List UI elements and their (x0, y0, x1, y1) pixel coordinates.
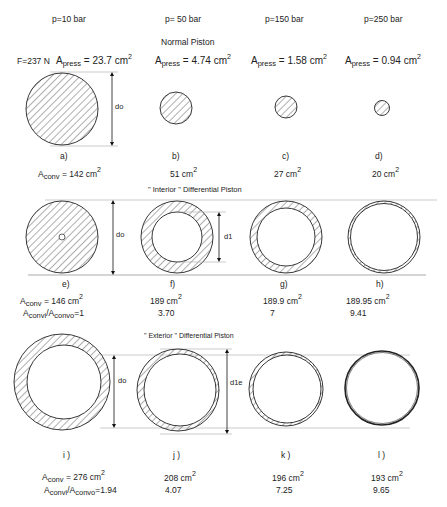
piston-d (375, 101, 390, 116)
aconv-j: 208 cm2 (164, 470, 196, 483)
label-d: d) (375, 151, 383, 161)
label-b: b) (172, 151, 180, 161)
ratio-g: 7 (270, 308, 275, 318)
label-a: a) (60, 151, 68, 161)
label-f: f) (170, 279, 175, 289)
label-j: j ) (173, 450, 180, 460)
ratio-k: 7.25 (276, 485, 293, 495)
do-label: do (115, 102, 123, 111)
label-k: k ) (281, 450, 290, 460)
aconv-c: 27 cm2 (274, 166, 301, 179)
apress-d: Apress = 0.94 cm2 (345, 53, 421, 68)
d1-label: d1 (224, 232, 232, 241)
label-c: c) (282, 151, 289, 161)
pressure-header-10: p=10 bar (52, 14, 86, 24)
ratio-h: 9.41 (350, 308, 367, 318)
piston-a (26, 73, 98, 145)
pressure-header-250: p=250 bar (364, 14, 403, 24)
label-e: e) (62, 279, 70, 289)
normal-piston-row (26, 72, 390, 146)
aconv-f: 189 cm2 (150, 293, 182, 306)
ratio-i: Aconvi/Aconvo=1.94 (44, 485, 117, 497)
piston-b (160, 92, 192, 124)
exterior-piston-row (14, 334, 419, 434)
aconv-d: 20 cm2 (372, 166, 399, 179)
exterior-piston-title: " Exterior " Differential Piston (144, 332, 234, 339)
ratio-f: 3.70 (158, 308, 175, 318)
label-l: l ) (378, 450, 385, 460)
aconv-g: 189.9 cm2 (263, 293, 302, 306)
label-g: g) (280, 279, 288, 289)
aconv-i: Aconv = 276 cm2 (42, 469, 105, 484)
d1e-label: d1e (230, 378, 243, 387)
apress-c: Apress = 1.58 cm2 (251, 53, 327, 68)
aconv-a: Aconv = 142 cm2 (38, 166, 101, 181)
normal-piston-title: Normal Piston (161, 37, 214, 47)
ratio-e: Aconvi/Aconvo=1 (23, 308, 84, 320)
do-label-exterior: do (118, 376, 126, 385)
aconv-h: 189.95 cm2 (346, 293, 390, 306)
force-label: F=237 N (17, 56, 50, 66)
aconv-b: 51 cm2 (170, 166, 197, 179)
aconv-k: 196 cm2 (272, 470, 304, 483)
aconv-e: Aconv = 146 cm2 (20, 293, 83, 308)
aconv-l: 193 cm2 (371, 470, 403, 483)
apress-a: Apress = 23.7 cm2 (56, 53, 132, 68)
label-h: h) (376, 279, 384, 289)
do-label-interior: do (116, 230, 124, 239)
ratio-j: 4.07 (165, 485, 182, 495)
apress-b: Apress = 4.74 cm2 (155, 53, 231, 68)
piston-c (275, 96, 297, 118)
interior-piston-title: " Interior " Differential Piston (148, 185, 242, 194)
label-i: i ) (63, 450, 70, 460)
pressure-header-50: p= 50 bar (165, 14, 201, 24)
piston-diagram (0, 0, 447, 507)
ratio-l: 9.65 (373, 485, 390, 495)
pressure-header-150: p=150 bar (265, 14, 304, 24)
